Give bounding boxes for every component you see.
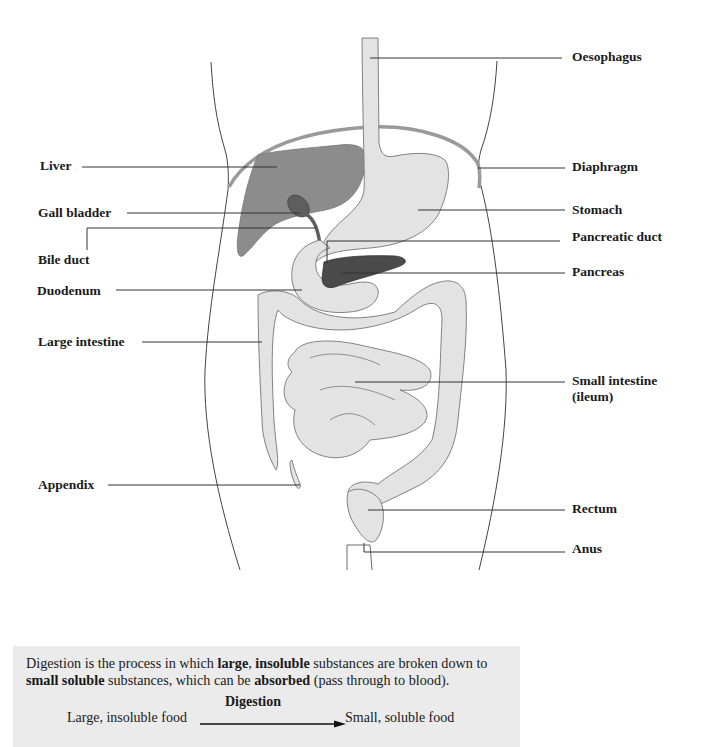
caption-part: substances are broken down to bbox=[310, 655, 488, 671]
caption-bold-absorbed: absorbed bbox=[254, 672, 310, 688]
label-bile-duct: Bile duct bbox=[38, 252, 89, 268]
caption-part: substances, which can be bbox=[104, 672, 254, 688]
caption-bold-large: large bbox=[218, 655, 249, 671]
body-outline-left bbox=[205, 62, 240, 570]
body-outline-right bbox=[478, 61, 506, 570]
label-pancreas: Pancreas bbox=[572, 264, 624, 280]
caption-part: (pass through to blood). bbox=[310, 672, 449, 688]
flow-from-label: Large, insoluble food bbox=[67, 710, 187, 726]
caption-bold-insoluble: insoluble bbox=[255, 655, 309, 671]
flow-process-label: Digestion bbox=[225, 694, 281, 710]
caption-bold-small-soluble: small soluble bbox=[26, 672, 104, 688]
caption-text: Digestion is the process in which large,… bbox=[26, 655, 516, 689]
caption-box: Digestion is the process in which large,… bbox=[13, 646, 520, 747]
label-diaphragm: Diaphragm bbox=[572, 159, 638, 175]
label-pancreatic-duct: Pancreatic duct bbox=[572, 229, 662, 245]
label-appendix: Appendix bbox=[38, 477, 94, 493]
label-duodenum: Duodenum bbox=[37, 283, 101, 299]
label-rectum: Rectum bbox=[572, 501, 617, 517]
label-liver: Liver bbox=[40, 158, 72, 174]
flow-to-label: Small, soluble food bbox=[345, 710, 454, 726]
label-stomach: Stomach bbox=[572, 202, 622, 218]
small-intestine bbox=[284, 341, 431, 458]
anal-canal-outline bbox=[347, 545, 372, 570]
label-anus: Anus bbox=[572, 541, 602, 557]
label-oesophagus: Oesophagus bbox=[572, 49, 642, 65]
arrow-right-icon bbox=[198, 719, 348, 729]
label-gall-bladder: Gall bladder bbox=[38, 205, 111, 221]
caption-part: Digestion is the process in which bbox=[26, 655, 218, 671]
appendix bbox=[290, 460, 301, 488]
label-large-intestine: Large intestine bbox=[38, 334, 125, 350]
label-small-intestine: Small intestine (ileum) bbox=[572, 373, 672, 405]
